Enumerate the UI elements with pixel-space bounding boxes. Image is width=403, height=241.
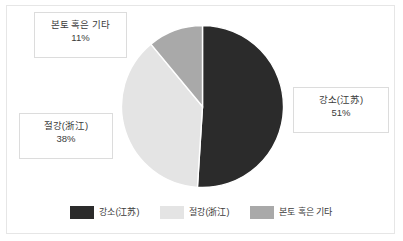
pie-slice-jiangsu[interactable]: [197, 26, 283, 188]
legend-item-jiangsu[interactable]: 강소(江苏): [70, 206, 139, 219]
legend-swatch-icon: [70, 206, 94, 219]
pie-chart-figure: 본토 혹은 기타 11% 강소(江苏) 51% 절강(浙江) 38% 강소(江苏…: [0, 0, 403, 241]
data-label-category: 강소(江苏): [294, 93, 388, 106]
data-label-percent: 38%: [20, 132, 112, 145]
legend-item-zhejiang[interactable]: 절강(浙江): [160, 206, 229, 219]
data-label-percent: 11%: [35, 31, 126, 44]
legend-item-label: 강소(江苏): [99, 206, 139, 219]
data-label-category: 절강(浙江): [20, 119, 112, 132]
legend-swatch-icon: [160, 206, 184, 219]
data-label-zhejiang: 절강(浙江) 38%: [19, 113, 113, 159]
chart-legend: 강소(江苏) 절강(浙江) 본토 혹은 기타: [0, 201, 403, 223]
pie-slices: [122, 26, 284, 188]
legend-swatch-icon: [250, 206, 274, 219]
data-label-jiangsu: 강소(江苏) 51%: [293, 87, 389, 133]
pie-svg: [121, 25, 284, 188]
legend-item-label: 절강(浙江): [189, 206, 229, 219]
legend-item-label: 본토 혹은 기타: [279, 206, 332, 219]
legend-item-mainland[interactable]: 본토 혹은 기타: [250, 206, 332, 219]
plot-area: 본토 혹은 기타 11% 강소(江苏) 51% 절강(浙江) 38% 강소(江苏…: [0, 0, 403, 241]
data-label-category: 본토 혹은 기타: [35, 18, 126, 31]
data-label-mainland: 본토 혹은 기타 11%: [34, 12, 127, 58]
data-label-percent: 51%: [294, 106, 388, 119]
pie-graphic: [121, 25, 284, 188]
